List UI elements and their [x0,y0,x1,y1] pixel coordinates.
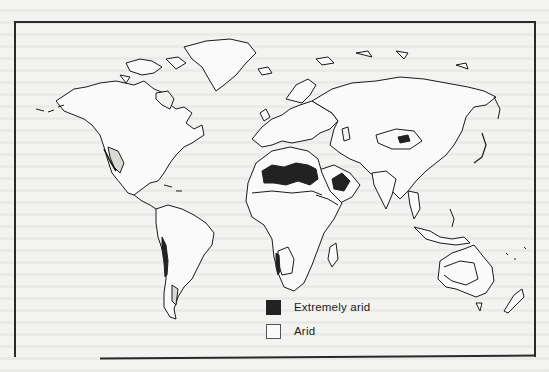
kamchatka [494,97,500,119]
philippines [450,209,454,227]
patagonia-arid [172,285,178,305]
legend-item-extremely-arid: Extremely arid [266,295,370,319]
india [372,171,396,209]
alaska-chain [36,105,64,112]
scandinavia [286,79,316,103]
new-zealand [504,289,524,313]
namib-extremely-arid [276,253,280,275]
british-isles [260,109,270,121]
indonesia [414,227,470,245]
legend-item-arid: Arid [266,319,370,343]
north-america-outline [56,81,204,195]
arid-swatch-icon [266,324,281,339]
tasmania [476,303,482,311]
indochina [408,191,420,219]
central-america [134,195,156,209]
legend-label: Extremely arid [294,301,370,313]
map-legend: Extremely arid Arid [266,295,370,343]
australia-outline [438,245,494,297]
sahara-extremely-arid [262,163,318,185]
madagascar [328,243,338,267]
caribbean-islands [164,185,182,191]
arctic-islands [316,51,468,69]
canadian-archipelago [120,57,186,83]
japan [474,133,486,163]
iceland [258,67,272,75]
pacific-islands [506,247,526,259]
taklamakan-extremely-arid [398,135,410,143]
extremely-arid-swatch-icon [266,300,281,315]
legend-label: Arid [294,325,315,337]
caspian-sea [342,127,350,141]
greenland-outline [184,39,256,91]
